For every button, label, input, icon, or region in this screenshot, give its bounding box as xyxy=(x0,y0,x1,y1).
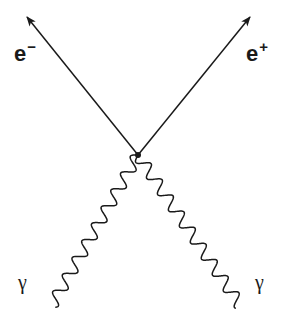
vertex-dot xyxy=(135,152,141,158)
electron-label-base: e xyxy=(14,41,26,66)
photon-left-label: γ xyxy=(18,272,27,292)
positron-label-charge: + xyxy=(259,38,268,55)
positron-label: e+ xyxy=(246,43,268,65)
electron-label: e− xyxy=(14,43,36,65)
positron-line xyxy=(138,17,250,155)
photon-line-right xyxy=(135,155,239,308)
positron-label-base: e xyxy=(246,41,258,66)
photon-right-label: γ xyxy=(255,272,264,292)
photon-line-left xyxy=(53,155,138,307)
feynman-diagram xyxy=(0,0,283,324)
electron-line xyxy=(27,17,138,155)
electron-label-charge: − xyxy=(27,38,36,55)
